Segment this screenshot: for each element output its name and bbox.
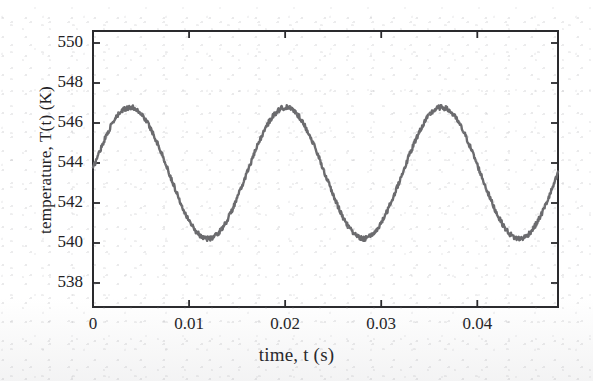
figure-container: 00.010.020.030.04 538540542544546548550 …: [0, 0, 593, 381]
y-axis-label: temperature, T(t) (K): [36, 86, 55, 234]
y-axis-label-wrapper: temperature, T(t) (K): [36, 30, 56, 290]
series-group: [93, 105, 558, 241]
x-tick-label: 0: [53, 314, 133, 334]
x-tick-label: 0.04: [437, 314, 517, 334]
x-tick-label: 0.01: [149, 314, 229, 334]
data-series-line: [93, 105, 558, 241]
tick-marks: [93, 31, 558, 307]
axes-frame: [93, 31, 558, 307]
x-axis-label: time, t (s): [0, 344, 593, 366]
x-tick-label: 0.02: [245, 314, 325, 334]
x-tick-label: 0.03: [341, 314, 421, 334]
